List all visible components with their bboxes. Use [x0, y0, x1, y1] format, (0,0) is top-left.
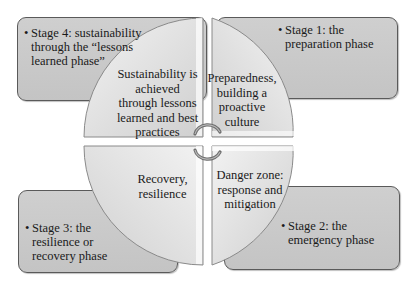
quadrant-top-right-line-2: building a: [207, 86, 277, 101]
quadrant-top-left-line-5: practices: [110, 125, 205, 140]
quadrant-bottom-right-line-1: Danger zone:: [210, 168, 290, 183]
quadrant-top-right-line-4: culture: [207, 115, 277, 130]
stage-3-text: •Stage 3: the resilience or recovery pha…: [25, 221, 107, 263]
bullet: •: [25, 221, 32, 235]
stage-1-line-1: Stage 1: the: [285, 23, 344, 37]
stage-2-line-2: emergency phase: [281, 233, 374, 247]
stage-1-line-2: preparation phase: [278, 37, 374, 51]
stage-3-line-3: recovery phase: [25, 249, 107, 263]
quadrant-top-left-line-3: through lessons: [110, 96, 205, 111]
quadrant-top-left-text: Sustainability is achieved through lesso…: [110, 67, 205, 140]
quadrant-bottom-right-line-3: mitigation: [210, 197, 290, 212]
quadrant-bottom-left-line-2: resilience: [125, 187, 200, 202]
quadrant-top-right-text: Preparedness, building a proactive cultu…: [207, 71, 277, 129]
stage-4-line-1: Stage 4: sustainability: [31, 26, 141, 40]
quadrant-top-left-line-2: achieved: [110, 82, 205, 97]
quadrant-bottom-left-line-1: Recovery,: [125, 172, 200, 187]
stage-3-line-1: Stage 3: the: [32, 221, 91, 235]
quadrant-bottom-right-text: Danger zone: response and mitigation: [210, 168, 290, 212]
bullet: •: [278, 23, 285, 37]
quadrant-bottom-left-text: Recovery, resilience: [125, 172, 200, 201]
quadrant-top-right-line-1: Preparedness,: [207, 71, 277, 86]
stage-4-text: •Stage 4: sustainability through the “le…: [24, 26, 141, 68]
stage-3-line-2: resilience or: [25, 235, 107, 249]
stage-2-line-1: Stage 2: the: [288, 219, 347, 233]
stage-1-text: •Stage 1: the preparation phase: [278, 23, 374, 51]
bullet: •: [24, 26, 31, 40]
stage-4-line-3: learned phase”: [24, 54, 141, 68]
stage-4-line-2: through the “lessons: [24, 40, 141, 54]
bullet: •: [281, 219, 288, 233]
quadrant-top-left-line-4: learned and best: [110, 111, 205, 126]
quadrant-top-left-line-1: Sustainability is: [110, 67, 205, 82]
stage-2-text: •Stage 2: the emergency phase: [281, 219, 374, 247]
quadrant-bottom-right-line-2: response and: [210, 183, 290, 198]
quadrant-top-right-line-3: proactive: [207, 100, 277, 115]
